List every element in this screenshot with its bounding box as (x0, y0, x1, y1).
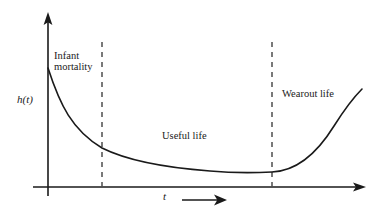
region-label-wearout-life: Wearout life (282, 88, 334, 99)
hazard-rate-curve (48, 68, 362, 173)
region-label-infant-mortality: Infant mortality (54, 50, 93, 73)
region-label-infant-mortality-line1: Infant (54, 50, 79, 61)
diagram-canvas (0, 0, 383, 221)
region-label-infant-mortality-line2: mortality (54, 61, 93, 72)
region-label-useful-life: Useful life (162, 130, 207, 141)
bathtub-curve-figure: h(t) Infant mortality Useful life Wearou… (0, 0, 383, 221)
y-axis-label: h(t) (17, 94, 33, 106)
x-axis-label: t (163, 191, 166, 203)
